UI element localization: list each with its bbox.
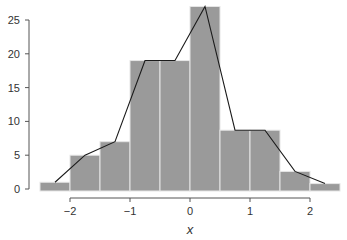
y-tick-label: 0 xyxy=(14,183,20,195)
histogram-bar xyxy=(190,6,220,191)
y-axis: 0510152025 xyxy=(8,14,29,195)
x-axis-title: x xyxy=(186,222,194,237)
x-tick-label: −2 xyxy=(64,205,77,217)
x-tick-label: −1 xyxy=(124,205,137,217)
x-tick-label: 0 xyxy=(187,205,193,217)
histogram-bar xyxy=(310,184,340,191)
x-tick-label: 1 xyxy=(247,205,253,217)
y-tick-label: 20 xyxy=(8,48,20,60)
y-tick-label: 10 xyxy=(8,115,20,127)
x-axis: −2−1012 xyxy=(64,198,313,217)
histogram-bar xyxy=(70,155,100,191)
histogram-bar xyxy=(40,182,70,191)
y-tick-label: 5 xyxy=(14,149,20,161)
histogram-chart: 0510152025 −2−1012 x xyxy=(0,0,347,240)
histogram-bar xyxy=(220,130,250,191)
histogram-bar xyxy=(160,61,190,191)
histogram-bar xyxy=(280,171,310,191)
y-tick-label: 15 xyxy=(8,82,20,94)
histogram-bar xyxy=(130,61,160,191)
histogram-bar xyxy=(250,130,280,191)
histogram-bar xyxy=(100,142,130,191)
y-tick-label: 25 xyxy=(8,14,20,26)
x-tick-label: 2 xyxy=(307,205,313,217)
